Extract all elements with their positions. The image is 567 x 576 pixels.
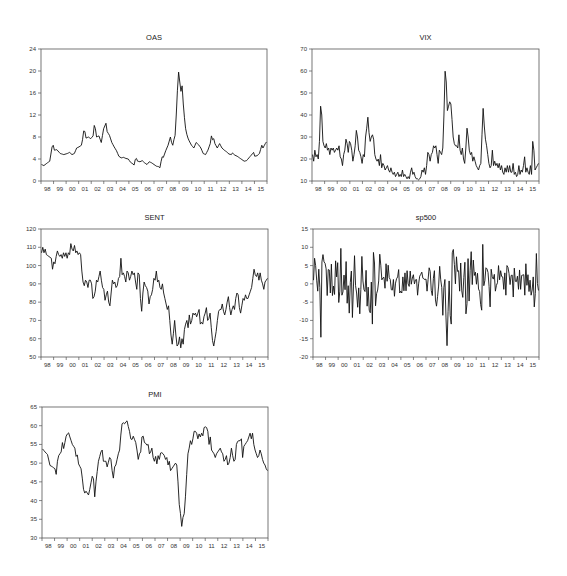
- x-tick-label: 15: [258, 543, 265, 549]
- x-tick-label: 10: [196, 543, 203, 549]
- x-tick-label: 02: [95, 543, 102, 549]
- x-tick-label: 08: [170, 543, 177, 549]
- y-tick-label: 35: [30, 516, 37, 522]
- x-tick-label: 04: [120, 543, 127, 549]
- y-tick-label: 45: [30, 479, 37, 485]
- plot-frame: [42, 407, 268, 538]
- y-tick-label: 55: [30, 441, 37, 447]
- x-tick-label: 98: [45, 543, 52, 549]
- x-tick-label: 11: [208, 543, 215, 549]
- x-tick-label: 05: [133, 543, 140, 549]
- y-tick-label: 30: [30, 535, 37, 541]
- x-tick-label: 00: [70, 543, 77, 549]
- y-tick-label: 60: [30, 423, 37, 429]
- series-line-pmi: [43, 421, 268, 527]
- y-tick-label: 65: [30, 404, 37, 410]
- x-tick-label: 01: [83, 543, 90, 549]
- x-tick-label: 09: [183, 543, 190, 549]
- x-tick-label: 99: [57, 543, 64, 549]
- x-tick-label: 14: [246, 543, 253, 549]
- chart-pmi: PMI 303540455055606598990001020304050607…: [0, 0, 290, 576]
- y-tick-label: 50: [30, 460, 37, 466]
- x-tick-label: 12: [221, 543, 228, 549]
- x-tick-label: 03: [108, 543, 115, 549]
- x-tick-label: 06: [145, 543, 152, 549]
- chart-svg: 3035404550556065989900010203040506070809…: [0, 0, 567, 576]
- x-tick-label: 13: [233, 543, 240, 549]
- y-tick-label: 40: [30, 498, 37, 504]
- x-tick-label: 07: [158, 543, 165, 549]
